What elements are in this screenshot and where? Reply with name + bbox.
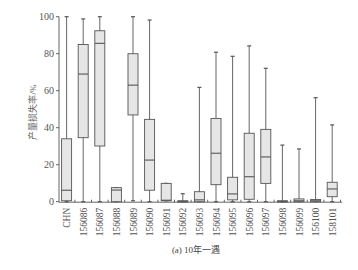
box-iqr — [78, 44, 88, 137]
box-156100 — [311, 98, 321, 202]
box-iqr — [211, 118, 221, 184]
y-tick-label: 80 — [44, 48, 54, 59]
y-tick-label: 40 — [44, 122, 54, 133]
x-tick-label: 156097 — [261, 207, 271, 236]
x-tick-label: 156088 — [112, 207, 122, 236]
box-iqr — [228, 177, 238, 200]
box-156099 — [294, 149, 304, 202]
box-CHN — [62, 17, 72, 202]
box-156087 — [95, 17, 105, 202]
x-tick-label: CHN — [62, 208, 72, 228]
y-tick-label: 0 — [49, 196, 54, 207]
box-156098 — [277, 145, 287, 202]
box-156086 — [78, 19, 88, 202]
y-axis-label: 产量损失率/% — [27, 84, 38, 140]
box-156096 — [244, 46, 254, 202]
box-156089 — [128, 17, 138, 201]
y-tick-label: 100 — [39, 11, 54, 22]
boxes — [62, 17, 338, 202]
y-tick-label: 20 — [44, 159, 54, 170]
x-tick-label: 156092 — [178, 207, 188, 236]
x-tick-label: 156095 — [228, 207, 238, 236]
box-iqr — [95, 31, 105, 146]
box-iqr — [244, 133, 254, 199]
x-tick-label: 156098 — [278, 207, 288, 236]
box-iqr — [128, 54, 138, 115]
box-156091 — [161, 183, 171, 200]
x-tick-label: 156099 — [295, 207, 305, 236]
boxplot-chart: 020406080100CHN1560861560871560881560891… — [0, 0, 358, 270]
x-tick-label: 156089 — [129, 207, 139, 236]
box-iqr — [327, 182, 337, 196]
x-tick-label: 156093 — [195, 207, 205, 236]
box-158101 — [327, 125, 337, 202]
y-tick-label: 60 — [44, 85, 54, 96]
x-tick-label: 158101 — [328, 207, 338, 236]
x-tick-label: 156086 — [79, 207, 89, 236]
x-tick-label: 156100 — [311, 207, 321, 236]
x-tick-label: 156096 — [245, 207, 255, 236]
box-iqr — [145, 119, 155, 190]
x-tick-label: 156091 — [162, 207, 172, 236]
box-156088 — [111, 188, 121, 202]
box-156090 — [145, 20, 155, 202]
box-156097 — [261, 68, 271, 201]
box-156093 — [194, 87, 204, 201]
box-iqr — [62, 139, 72, 201]
box-iqr — [161, 183, 171, 200]
x-tick-label: 156087 — [95, 207, 105, 236]
x-tick-label: 156090 — [145, 207, 155, 236]
chart-title: (a) 10年一遇 — [172, 244, 220, 255]
box-156095 — [228, 56, 238, 201]
box-156092 — [178, 194, 188, 202]
box-iqr — [261, 129, 271, 183]
box-156094 — [211, 52, 221, 201]
x-tick-label: 156094 — [212, 207, 222, 236]
